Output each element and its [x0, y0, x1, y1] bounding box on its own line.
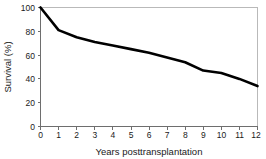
survival-curve-chart: 0 20 40 60 80 100 0 1 2	[0, 0, 266, 159]
y-tick-label: 60	[26, 51, 36, 61]
x-tick-label: 11	[235, 130, 244, 140]
x-tick-label: 2	[74, 130, 79, 140]
y-axis-title: Survival (%)	[2, 41, 13, 92]
x-tick-label: 6	[147, 130, 152, 140]
y-tick-label: 20	[26, 98, 36, 108]
x-tick-label: 8	[183, 130, 188, 140]
x-axis-title: Years posttransplantation	[96, 146, 203, 157]
x-tick-label: 1	[56, 130, 61, 140]
x-tick-label: 7	[165, 130, 170, 140]
x-tick-label: 3	[92, 130, 97, 140]
y-tick-label: 100	[21, 3, 35, 13]
x-tick-label: 9	[201, 130, 206, 140]
x-tick-label: 0	[38, 130, 43, 140]
y-tick-label: 80	[26, 27, 36, 37]
x-tick-label: 10	[217, 130, 227, 140]
figure-container: 0 20 40 60 80 100 0 1 2	[0, 0, 266, 159]
x-tick-label: 5	[129, 130, 134, 140]
y-tick-label: 0	[30, 122, 35, 132]
x-tick-label: 12	[251, 130, 261, 140]
y-tick-label: 40	[26, 74, 36, 84]
x-tick-label: 4	[111, 130, 116, 140]
